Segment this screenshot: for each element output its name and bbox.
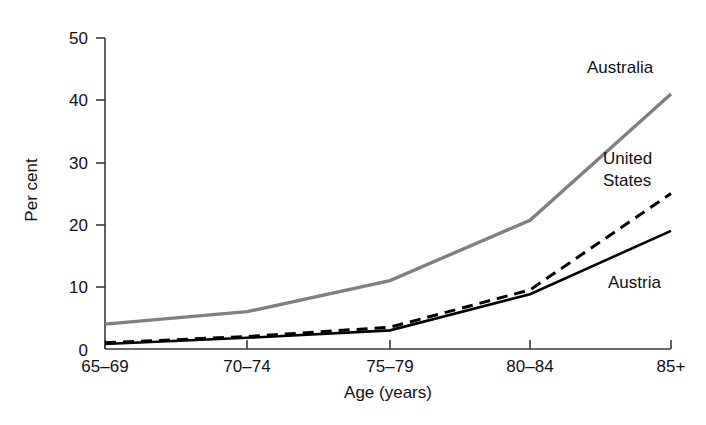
y-tick-label-10: 10 <box>69 278 88 297</box>
series-label-united: United <box>603 149 652 168</box>
y-tick-label-30: 30 <box>69 154 88 173</box>
x-tick-label-65-69: 65–69 <box>81 357 128 376</box>
x-tick-label-75-79: 75–79 <box>366 357 413 376</box>
x-tick-label-80-84: 80–84 <box>506 357 553 376</box>
y-tick-label-40: 40 <box>69 91 88 110</box>
chart-container: 50 40 30 20 10 0 65–69 70–74 75–79 80–84… <box>0 0 706 425</box>
x-tick-label-70-74: 70–74 <box>223 357 270 376</box>
x-axis-title: Age (years) <box>344 383 432 402</box>
y-axis-title: Per cent <box>22 158 41 222</box>
series-label-austria: Austria <box>608 273 661 292</box>
x-tick-label-85plus: 85+ <box>657 357 686 376</box>
series-label-australia: Australia <box>587 58 654 77</box>
line-chart: 50 40 30 20 10 0 65–69 70–74 75–79 80–84… <box>0 0 706 425</box>
y-tick-label-50: 50 <box>69 29 88 48</box>
series-label-states: States <box>603 171 651 190</box>
y-tick-label-20: 20 <box>69 216 88 235</box>
